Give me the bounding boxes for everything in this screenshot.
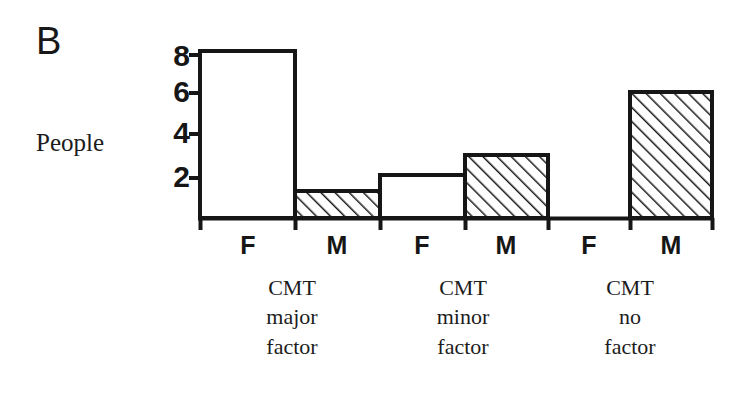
group-label-line-3: factor	[437, 332, 490, 361]
group-label-line-1: CMT	[266, 273, 317, 302]
group-label-line-1: CMT	[604, 273, 655, 302]
x-category-label-4: M	[496, 233, 517, 258]
y-tick-label-4: 4	[160, 118, 190, 148]
x-category-label-6: M	[661, 233, 682, 258]
group-label-line-2: minor	[437, 302, 490, 331]
y-tick-label-6: 6	[160, 77, 190, 107]
group-label-line-2: no	[604, 302, 655, 331]
bar-group3-m	[630, 92, 712, 218]
group-label-minor-factor: CMT minor factor	[437, 273, 490, 361]
figure-panel-b: B People	[0, 0, 748, 397]
bar-group2-f	[380, 175, 465, 218]
bar-group2-m	[465, 155, 548, 218]
y-tick-label-2: 2	[160, 162, 190, 192]
y-tick-label-8: 8	[160, 41, 190, 71]
x-category-label-5: F	[581, 233, 596, 258]
group-label-line-1: CMT	[437, 273, 490, 302]
group-label-major-factor: CMT major factor	[266, 273, 317, 361]
group-label-line-3: factor	[604, 332, 655, 361]
x-category-label-3: F	[414, 233, 429, 258]
x-category-label-1: F	[240, 233, 255, 258]
bar-group1-m	[295, 191, 380, 218]
x-category-label-2: M	[327, 233, 348, 258]
group-label-no-factor: CMT no factor	[604, 273, 655, 361]
group-label-line-2: major	[266, 302, 317, 331]
bar-group1-f	[200, 51, 295, 218]
group-label-line-3: factor	[266, 332, 317, 361]
